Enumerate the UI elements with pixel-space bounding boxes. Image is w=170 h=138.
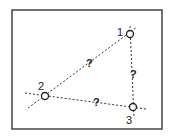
- node-2-circle-icon: [42, 93, 49, 100]
- triangle-diagram: ???123: [0, 0, 170, 138]
- diagram-frame: [12, 10, 162, 129]
- node-2-label: 2: [38, 80, 44, 92]
- node-3-label: 3: [126, 114, 132, 126]
- nodes-group: [42, 31, 137, 111]
- labels-group: ???123: [38, 26, 137, 126]
- edge-label-2-3: ?: [93, 96, 100, 108]
- edges-group: [25, 26, 146, 117]
- node-1-label: 1: [117, 26, 123, 38]
- node-3-circle-icon: [130, 104, 137, 111]
- edge-label-2-1: ?: [86, 57, 93, 69]
- edge-label-1-3: ?: [130, 68, 137, 80]
- node-1-circle-icon: [127, 31, 134, 38]
